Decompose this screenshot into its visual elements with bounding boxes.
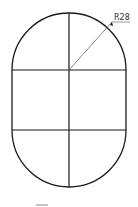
radius-leader-line: [69, 22, 112, 70]
radius-label: R28: [114, 13, 130, 22]
drawing-canvas: R28: [0, 0, 138, 207]
